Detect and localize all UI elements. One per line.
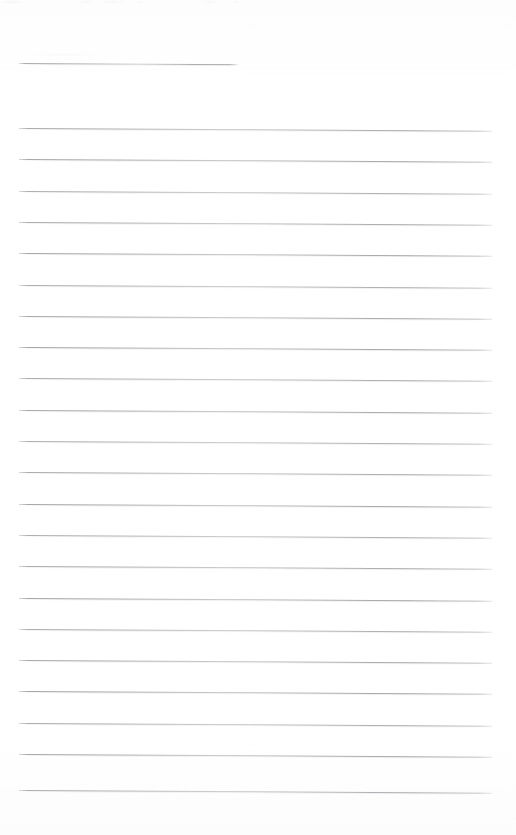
ruled-line: [19, 723, 492, 727]
ruled-line: [19, 504, 492, 508]
ruled-line: [19, 285, 492, 289]
ruled-line: [19, 441, 492, 445]
ruled-line: [19, 253, 492, 257]
scanned-page: [0, 0, 516, 835]
ruled-lines-layer: [0, 0, 516, 835]
ruled-line: [19, 754, 492, 758]
ruled-line: [19, 316, 492, 320]
ruled-line-partial: [19, 63, 238, 65]
ruled-line: [19, 191, 492, 195]
ruled-line: [19, 629, 492, 633]
ruled-line: [19, 410, 492, 414]
ruled-line: [19, 159, 492, 163]
ruled-line: [19, 472, 492, 476]
ruled-line: [19, 222, 492, 226]
ruled-line: [19, 535, 492, 539]
ruled-line: [19, 790, 492, 794]
ruled-line: [19, 691, 492, 695]
ruled-line: [19, 347, 492, 351]
ruled-line: [19, 598, 492, 602]
ruled-line: [19, 566, 492, 570]
ruled-line: [19, 378, 492, 382]
ruled-line: [19, 660, 492, 664]
ruled-line: [19, 128, 492, 132]
